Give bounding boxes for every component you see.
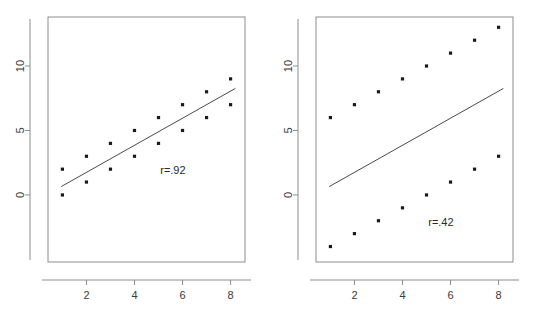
data-point: [205, 90, 208, 93]
left-panel-canvas: 24680510r=.92: [0, 0, 267, 314]
data-point: [109, 168, 112, 171]
left-panel: 24680510r=.92: [0, 0, 267, 314]
data-point: [449, 180, 452, 183]
data-point: [329, 116, 332, 119]
data-point: [181, 129, 184, 132]
data-point: [425, 64, 428, 67]
right-panel: 24680510r=.42: [267, 0, 534, 314]
data-point: [473, 39, 476, 42]
data-point: [85, 180, 88, 183]
data-point: [61, 193, 64, 196]
data-point: [229, 103, 232, 106]
data-point: [157, 116, 160, 119]
x-axis-tick-label: 6: [179, 289, 185, 301]
data-point: [329, 245, 332, 248]
y-axis-tick-label: 5: [282, 127, 294, 133]
y-axis-tick-label: 10: [14, 60, 26, 72]
scatter-plot-figure: 24680510r=.92 24680510r=.42: [0, 0, 535, 314]
data-point: [229, 77, 232, 80]
plot-frame: [316, 17, 513, 262]
data-point: [181, 103, 184, 106]
data-point: [133, 155, 136, 158]
correlation-annotation: r=.92: [160, 164, 185, 176]
data-point: [157, 142, 160, 145]
correlation-annotation: r=.42: [428, 216, 453, 228]
data-point: [109, 142, 112, 145]
regression-line: [61, 88, 235, 186]
data-point: [85, 155, 88, 158]
plot-frame: [48, 17, 245, 262]
x-axis-tick-label: 2: [351, 289, 357, 301]
data-point: [61, 168, 64, 171]
x-axis-tick-label: 4: [131, 289, 137, 301]
y-axis-tick-label: 5: [14, 127, 26, 133]
y-axis-tick-label: 0: [282, 192, 294, 198]
data-point: [133, 129, 136, 132]
x-axis-tick-label: 8: [496, 289, 502, 301]
data-point: [497, 155, 500, 158]
data-point: [377, 219, 380, 222]
data-point: [353, 103, 356, 106]
data-point: [449, 52, 452, 55]
data-point: [473, 168, 476, 171]
x-axis-tick-label: 2: [83, 289, 89, 301]
data-point: [401, 206, 404, 209]
data-point: [205, 116, 208, 119]
right-panel-canvas: 24680510r=.42: [267, 0, 535, 314]
data-point: [377, 90, 380, 93]
y-axis-tick-label: 10: [282, 60, 294, 72]
x-axis-tick-label: 6: [447, 289, 453, 301]
y-axis-tick-label: 0: [14, 192, 26, 198]
x-axis-tick-label: 4: [399, 289, 405, 301]
data-point: [425, 193, 428, 196]
data-point: [497, 26, 500, 29]
data-point: [401, 77, 404, 80]
x-axis-tick-label: 8: [228, 289, 234, 301]
data-point: [353, 232, 356, 235]
